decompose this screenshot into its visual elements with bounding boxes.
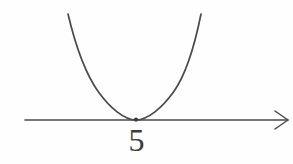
parabola-figure: 5 xyxy=(0,0,293,164)
graph-canvas xyxy=(0,0,293,164)
parabola-icon xyxy=(68,14,201,120)
vertex-point-dot xyxy=(134,118,138,122)
